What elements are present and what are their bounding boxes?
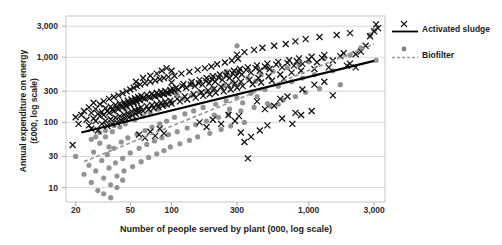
x-tick-label-0: 20 [51,205,101,215]
y-tick-label-4: 1,000 [16,52,58,62]
data-point-biofilter [91,150,96,155]
data-point-biofilter [146,155,151,160]
data-point-biofilter [254,94,259,99]
data-point-biofilter [182,111,187,116]
data-point-biofilter [142,128,147,133]
data-point-biofilter [128,150,133,155]
x-tick-label-4: 1,000 [284,205,334,215]
data-point-biofilter [120,178,125,183]
data-point-biofilter [106,144,111,149]
y-tick-label-0: 10 [16,183,58,193]
data-point-biofilter [207,131,212,136]
data-point-biofilter [108,195,113,200]
data-point-biofilter [195,134,200,139]
data-point-biofilter [125,135,130,140]
data-point-biofilter [219,127,224,132]
data-point-biofilter [252,105,257,110]
data-point-biofilter [224,98,229,103]
legend-key-biofilter [392,44,418,64]
data-point-biofilter [144,142,149,147]
data-point-biofilter [157,121,162,126]
legend-item-activated-sludge: Activated sludge [392,18,502,44]
data-point-biofilter [93,168,98,173]
data-point-biofilter [101,175,106,180]
data-point-biofilter [113,160,118,165]
data-point-biofilter [240,100,245,105]
data-point-biofilter [108,182,113,187]
data-point-biofilter [121,168,126,173]
chart-container: Annual expenditure on energy (£000, log … [0,0,502,245]
data-point-biofilter [242,120,247,125]
x-tick-label-2: 100 [147,205,197,215]
data-point-biofilter [191,108,196,113]
data-point-biofilter [338,82,343,87]
data-point-biofilter [293,94,298,99]
data-point-biofilter [95,188,100,193]
legend-item-biofilter: Biofilter [392,44,502,70]
x-tick-label-5: 3,000 [349,205,399,215]
data-point-biofilter [120,156,125,161]
chart-legend: Activated sludge Biofilter [392,18,502,70]
legend-label-activated-sludge: Activated sludge [422,24,490,34]
data-point-biofilter [177,141,182,146]
data-point-biofilter [103,134,108,139]
data-point-biofilter [373,58,378,63]
data-point-biofilter [161,148,166,153]
y-tick-label-2: 100 [16,117,58,127]
y-tick-label-3: 300 [16,86,58,96]
data-point-biofilter [106,165,111,170]
data-point-biofilter [204,118,209,123]
data-point-biofilter [101,191,106,196]
data-point-biofilter [149,124,154,129]
data-point-biofilter [103,128,108,133]
data-point-biofilter [110,129,115,134]
data-point-biofilter [172,115,177,120]
data-point-biofilter [93,134,98,139]
data-point-biofilter [227,107,232,112]
data-point-biofilter [175,129,180,134]
data-point-biofilter [212,112,217,117]
data-point-biofilter [187,138,192,143]
legend-label-biofilter: Biofilter [422,50,454,60]
data-point-biofilter [81,172,86,177]
data-point-biofilter [99,158,104,163]
legend-key-activated-sludge [392,18,418,38]
data-point-biofilter [238,108,243,113]
data-point-biofilter [185,125,190,130]
data-point-biofilter [89,180,94,185]
data-point-biofilter [73,154,78,159]
x-tick-label-3: 300 [212,205,262,215]
data-point-biofilter [213,102,218,107]
data-point-biofilter [89,137,94,142]
data-point-biofilter [164,118,169,123]
data-point-biofilter [168,144,173,149]
data-point-biofilter [114,185,119,190]
data-point-biofilter [201,105,206,110]
data-point-biofilter [317,86,322,91]
data-point-biofilter [114,173,119,178]
data-point-biofilter [97,141,102,146]
data-point-biofilter [137,146,142,151]
y-tick-label-1: 30 [16,151,58,161]
data-point-biofilter [139,159,144,164]
data-point-biofilter [234,43,239,48]
data-point-biofilter [86,163,91,168]
data-point-biofilter [130,164,135,169]
y-tick-label-5: 3,000 [16,21,58,31]
data-point-biofilter [154,151,159,156]
data-point-biofilter [119,139,124,144]
